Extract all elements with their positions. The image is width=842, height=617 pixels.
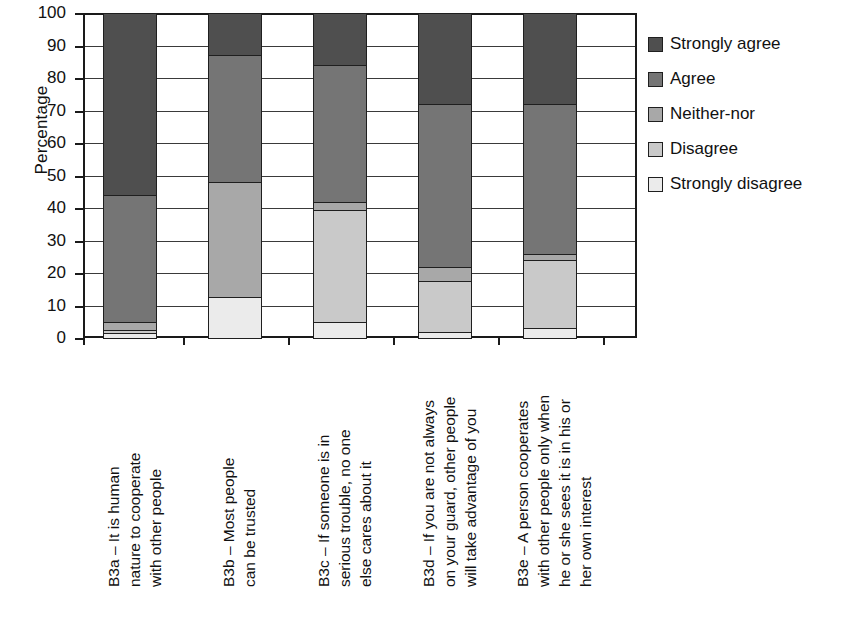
legend-item[interactable]: Strongly disagree xyxy=(648,168,838,200)
gridline xyxy=(85,46,635,47)
legend-item[interactable]: Strongly agree xyxy=(648,28,838,60)
x-category-label-line: will take advantage of you xyxy=(460,397,481,587)
x-category-label-line: B3b – Most people xyxy=(218,458,239,587)
y-tick-mark xyxy=(75,306,83,308)
plot-area xyxy=(83,13,637,338)
y-tick-mark xyxy=(75,13,83,15)
x-tick-mark xyxy=(183,338,185,345)
y-tick-label: 90 xyxy=(20,37,66,54)
legend-item[interactable]: Disagree xyxy=(648,133,838,165)
legend-swatch-icon xyxy=(648,37,663,52)
y-tick-label: 10 xyxy=(20,297,66,314)
y-tick-label: 60 xyxy=(20,134,66,151)
y-tick-mark xyxy=(75,78,83,80)
gridline xyxy=(85,78,635,79)
legend-item[interactable]: Neither-nor xyxy=(648,98,838,130)
y-tick-mark xyxy=(75,46,83,48)
gridline xyxy=(85,143,635,144)
y-tick-mark xyxy=(75,208,83,210)
x-category-label-line: he or she sees it is in his or xyxy=(554,395,575,587)
x-category-label-line: with other people xyxy=(145,453,166,587)
x-category-label-line: with other people only when xyxy=(533,395,554,587)
x-category-label: B3d – If you are not alwayson your guard… xyxy=(418,397,481,587)
gridline xyxy=(85,241,635,242)
legend: Strongly agreeAgreeNeither-norDisagreeSt… xyxy=(648,28,838,203)
legend-swatch-icon xyxy=(648,177,663,192)
y-tick-label: 100 xyxy=(20,4,66,21)
x-category-label: B3c – If someone is inserious trouble, n… xyxy=(313,429,376,587)
x-tick-mark xyxy=(498,338,500,345)
x-category-label-line: serious trouble, no one xyxy=(334,429,355,587)
y-tick-mark xyxy=(75,338,83,340)
legend-swatch-icon xyxy=(648,142,663,157)
x-category-label-line: B3a – It is human xyxy=(103,453,124,587)
x-category-label-line: B3e – A person cooperates xyxy=(512,395,533,587)
legend-item[interactable]: Agree xyxy=(648,63,838,95)
x-category-label-line: B3c – If someone is in xyxy=(313,429,334,587)
x-category-label-line: B3d – If you are not always xyxy=(418,397,439,587)
y-tick-label: 0 xyxy=(20,329,66,346)
y-tick-label: 20 xyxy=(20,264,66,281)
x-category-label: B3a – It is humannature to cooperatewith… xyxy=(103,453,166,587)
gridline xyxy=(85,176,635,177)
gridline xyxy=(85,273,635,274)
y-axis-title: Percentage xyxy=(32,40,52,220)
y-tick-mark xyxy=(75,273,83,275)
legend-label: Neither-nor xyxy=(670,104,755,124)
y-tick-mark xyxy=(75,111,83,113)
y-tick-label: 40 xyxy=(20,199,66,216)
x-category-label-line: can be trusted xyxy=(239,458,260,587)
legend-label: Strongly disagree xyxy=(670,174,802,194)
x-category-label-line: else cares about it xyxy=(355,429,376,587)
y-tick-mark xyxy=(75,176,83,178)
x-category-label-line: her own interest xyxy=(575,395,596,587)
legend-swatch-icon xyxy=(648,72,663,87)
gridline xyxy=(85,208,635,209)
y-tick-label: 80 xyxy=(20,69,66,86)
y-tick-mark xyxy=(75,143,83,145)
legend-label: Disagree xyxy=(670,139,738,159)
x-tick-mark xyxy=(393,338,395,345)
x-tick-mark xyxy=(83,338,85,345)
x-category-label: B3e – A person cooperateswith other peop… xyxy=(512,395,596,587)
y-tick-label: 70 xyxy=(20,102,66,119)
y-tick-mark xyxy=(75,241,83,243)
gridline xyxy=(85,111,635,112)
y-tick-label: 30 xyxy=(20,232,66,249)
legend-label: Agree xyxy=(670,69,715,89)
x-tick-mark xyxy=(288,338,290,345)
legend-swatch-icon xyxy=(648,107,663,122)
stacked-bar-chart: Percentage 0102030405060708090100 B3a – … xyxy=(0,0,842,617)
x-category-label-line: nature to cooperate xyxy=(124,453,145,587)
y-tick-label: 50 xyxy=(20,167,66,184)
x-tick-mark xyxy=(603,338,605,345)
x-category-label: B3b – Most peoplecan be trusted xyxy=(218,458,260,587)
x-category-label-line: on your guard, other people xyxy=(439,397,460,587)
gridline xyxy=(85,306,635,307)
legend-label: Strongly agree xyxy=(670,34,781,54)
